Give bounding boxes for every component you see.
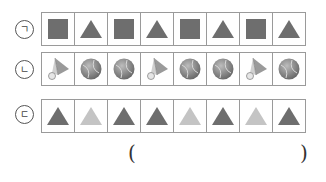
- pattern-cell: [141, 53, 174, 85]
- shuttlecock-icon: [144, 56, 170, 82]
- shuttlecock-icon: [243, 56, 269, 82]
- pattern-cell: [108, 13, 141, 45]
- triangle-icon: [79, 19, 103, 39]
- pattern-cell: [42, 53, 75, 85]
- light-triangle-icon: [244, 106, 268, 126]
- pattern-cell: [42, 100, 75, 132]
- tennis-ball-icon: [79, 57, 103, 81]
- row-label-nieun: ㄴ: [15, 60, 34, 79]
- pattern-cell: [240, 13, 273, 45]
- pattern-cell: [174, 13, 207, 45]
- pattern-cell: [108, 100, 141, 132]
- pattern-cell: [174, 100, 207, 132]
- square-icon: [113, 18, 135, 40]
- light-triangle-icon: [178, 106, 202, 126]
- pattern-cell: [108, 53, 141, 85]
- pattern-cell: [240, 100, 273, 132]
- pattern-row-nieun: [41, 52, 306, 86]
- pattern-row-digeut: [41, 99, 306, 133]
- pattern-cell: [75, 100, 108, 132]
- row-label-giyeok: ㄱ: [15, 20, 34, 39]
- triangle-icon: [145, 19, 169, 39]
- triangle-icon: [277, 19, 301, 39]
- answer-open-paren: (: [128, 141, 136, 165]
- answer-blank[interactable]: [140, 144, 295, 166]
- answer-close-paren: ): [300, 141, 308, 165]
- dark-triangle-icon: [112, 106, 136, 126]
- pattern-cell: [207, 13, 240, 45]
- dark-triangle-icon: [145, 106, 169, 126]
- pattern-cell: [207, 100, 240, 132]
- pattern-cell: [141, 100, 174, 132]
- pattern-cell: [273, 13, 305, 45]
- square-icon: [179, 18, 201, 40]
- tennis-ball-icon: [211, 57, 235, 81]
- tennis-ball-icon: [178, 57, 202, 81]
- pattern-cell: [141, 13, 174, 45]
- pattern-row-giyeok: [41, 12, 306, 46]
- pattern-cell: [42, 13, 75, 45]
- pattern-cell: [240, 53, 273, 85]
- tennis-ball-icon: [112, 57, 136, 81]
- shuttlecock-icon: [45, 56, 71, 82]
- pattern-cell: [75, 53, 108, 85]
- light-triangle-icon: [79, 106, 103, 126]
- pattern-cell: [75, 13, 108, 45]
- tennis-ball-icon: [277, 57, 301, 81]
- pattern-cell: [273, 100, 305, 132]
- dark-triangle-icon: [46, 106, 70, 126]
- dark-triangle-icon: [211, 106, 235, 126]
- pattern-cell: [207, 53, 240, 85]
- square-icon: [245, 18, 267, 40]
- triangle-icon: [211, 19, 235, 39]
- dark-triangle-icon: [277, 106, 301, 126]
- square-icon: [47, 18, 69, 40]
- pattern-cell: [174, 53, 207, 85]
- pattern-cell: [273, 53, 305, 85]
- row-label-digeut: ㄷ: [15, 105, 34, 124]
